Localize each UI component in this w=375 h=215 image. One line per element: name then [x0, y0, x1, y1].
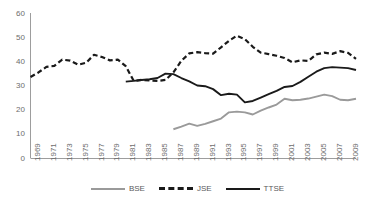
- x-tick-label: 1987: [177, 143, 185, 161]
- chart-plot-area: [0, 0, 375, 215]
- y-tick-label: 60: [3, 9, 25, 18]
- x-tick-label: 1971: [50, 143, 58, 161]
- series-line-ttse: [126, 67, 356, 102]
- legend-label-bse: BSE: [129, 185, 145, 193]
- x-tick-label: 1977: [98, 143, 106, 161]
- x-tick-label: 1981: [129, 143, 137, 161]
- x-tick-label: 1991: [209, 143, 217, 161]
- line-chart: 0102030405060 19691971197319751977197919…: [0, 0, 375, 215]
- x-tick-label: 2005: [320, 143, 328, 161]
- series-line-jse: [31, 36, 357, 81]
- y-tick-label: 10: [3, 129, 25, 138]
- x-tick-label: 1969: [34, 143, 42, 161]
- x-tick-label: 2001: [288, 143, 296, 161]
- x-tick-label: 1975: [82, 143, 90, 161]
- x-tick-label: 1983: [145, 143, 153, 161]
- x-tick-label: 2007: [336, 143, 344, 161]
- y-tick-label: 20: [3, 105, 25, 114]
- x-tick-label: 1985: [161, 143, 169, 161]
- chart-legend: BSE JSE TTSE: [0, 185, 375, 193]
- x-tick-label: 1993: [225, 143, 233, 161]
- x-tick-label: 2009: [352, 143, 360, 161]
- legend-swatch-ttse: [226, 186, 260, 193]
- legend-label-jse: JSE: [197, 185, 212, 193]
- series-line-bse: [173, 95, 356, 130]
- y-tick-label: 30: [3, 81, 25, 90]
- x-tick-label: 1995: [240, 143, 248, 161]
- legend-item-jse[interactable]: JSE: [159, 185, 212, 193]
- legend-item-ttse[interactable]: TTSE: [226, 185, 284, 193]
- figure-caption: [4, 205, 372, 215]
- legend-label-ttse: TTSE: [264, 185, 284, 193]
- series-layer: [31, 36, 357, 130]
- x-tick-label: 1997: [256, 143, 264, 161]
- x-tick-label: 1973: [66, 143, 74, 161]
- x-tick-label: 2003: [304, 143, 312, 161]
- legend-swatch-jse: [159, 186, 193, 193]
- x-tick-label: 1999: [272, 143, 280, 161]
- legend-swatch-bse: [91, 186, 125, 193]
- y-tick-label: 40: [3, 57, 25, 66]
- x-tick-label: 1979: [113, 143, 121, 161]
- legend-item-bse[interactable]: BSE: [91, 185, 145, 193]
- x-tick-label: 1989: [193, 143, 201, 161]
- y-tick-label: 0: [3, 154, 25, 163]
- y-tick-label: 50: [3, 33, 25, 42]
